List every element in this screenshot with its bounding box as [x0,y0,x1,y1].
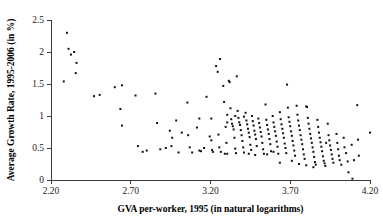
y-tick-label: 2.5 [32,15,44,25]
data-point [328,139,330,141]
data-point [233,128,235,130]
data-point [336,142,338,144]
data-point [308,128,310,130]
data-point [270,150,272,152]
data-point [306,106,308,108]
data-point [237,110,239,112]
data-point [247,128,249,130]
data-point [294,155,296,157]
x-axis-title: GVA per-worker, 1995 (in natural logarit… [118,204,304,215]
data-point [312,166,314,168]
data-point [296,105,298,107]
data-point [245,112,247,114]
data-point [217,71,219,73]
data-point [267,128,269,130]
data-point [169,130,171,132]
scatter-plot-figure: 00.511.522.52.202.703.203.704.20GVA per-… [0,0,383,222]
data-point [310,137,312,139]
data-point [316,119,318,121]
data-point [312,146,314,148]
data-point [317,126,319,128]
data-point [339,159,341,161]
data-point [358,155,360,157]
data-point [337,148,339,150]
data-point [314,161,316,163]
data-point [93,95,95,97]
data-point [251,115,253,117]
axis-labels-group: 00.511.522.52.202.703.203.704.20GVA per-… [6,15,379,215]
data-point [340,164,342,166]
data-point [272,115,274,117]
data-point [351,144,353,146]
axes-group [47,20,370,184]
x-tick-label: 2.70 [122,186,139,196]
data-point [159,148,161,150]
data-point [299,129,301,131]
data-point [280,118,282,120]
data-point [191,151,193,153]
data-point [240,129,242,131]
data-point [186,102,188,104]
data-point [257,118,259,120]
data-point [329,144,331,146]
y-tick-label: 0.5 [32,143,44,153]
data-point [154,93,156,95]
data-point [266,124,268,126]
data-point [234,148,236,150]
data-point [282,132,284,134]
data-point [261,135,263,137]
data-point [135,95,137,97]
data-point [338,155,340,157]
data-point [258,122,260,124]
data-point [225,126,227,128]
data-point [315,164,317,166]
data-point [203,147,205,149]
data-point [343,137,345,139]
data-point [223,101,225,103]
data-point [286,84,288,86]
y-tick-label: 1 [39,111,44,121]
data-point [99,94,101,96]
data-point [269,143,271,145]
data-point [262,148,264,150]
data-point [325,142,327,144]
data-point [243,151,245,153]
data-point [269,138,271,140]
data-point [266,153,268,155]
data-point [290,130,292,132]
data-point [357,139,359,141]
data-point [241,140,243,142]
data-point [253,125,255,127]
data-point [233,137,235,139]
data-point [215,65,217,67]
data-point [293,150,295,152]
data-point [236,75,238,77]
data-point [226,121,228,123]
y-axis-title: Average Growth Rate, 1995-2006 (in %) [6,19,17,182]
data-point [252,120,254,122]
data-point [210,139,212,141]
data-point [170,145,172,147]
data-point [327,123,329,125]
data-point [273,121,275,123]
data-point [73,51,75,53]
data-point [309,133,311,135]
data-point [231,123,233,125]
data-point [235,152,237,154]
data-point [289,125,291,127]
data-point [273,151,275,153]
data-point [219,58,221,60]
y-tick-label: 2 [39,47,44,57]
data-point [319,137,321,139]
data-point [276,141,278,143]
data-point [209,135,211,137]
data-point [321,150,323,152]
data-point [280,123,282,125]
data-point [261,142,263,144]
data-point [211,149,213,151]
data-point [351,178,353,180]
data-point [156,122,158,124]
data-point [229,81,231,83]
data-point [70,54,72,56]
data-point [220,151,222,153]
